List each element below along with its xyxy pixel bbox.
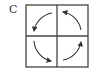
arrow-top-left-icon <box>34 13 52 31</box>
arrow-bottom-right-icon <box>63 42 81 60</box>
arrow-top-right-icon <box>63 12 81 30</box>
arrow-bottom-left-icon <box>34 41 51 61</box>
grid <box>26 5 88 67</box>
rotation-diagram <box>0 0 95 69</box>
